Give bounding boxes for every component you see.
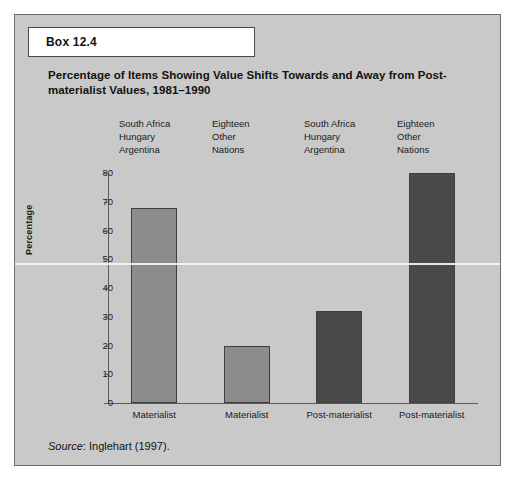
y-tick-mark bbox=[104, 173, 109, 174]
group-header-line: Hungary bbox=[304, 130, 355, 143]
group-header-line: Argentina bbox=[304, 143, 355, 156]
group-header-line: Argentina bbox=[119, 143, 170, 156]
box-number-tag: Box 12.4 bbox=[28, 27, 255, 57]
y-axis-title: Percentage bbox=[24, 135, 34, 255]
bar-chart: South AfricaHungaryArgentinaEighteenOthe… bbox=[48, 115, 478, 430]
group-header-line: South Africa bbox=[304, 117, 355, 130]
y-tick-mark bbox=[104, 231, 109, 232]
plot-area: Percentage 01020304050607080MaterialistM… bbox=[48, 173, 478, 403]
y-tick-mark bbox=[104, 374, 109, 375]
y-tick-mark bbox=[104, 288, 109, 289]
bar bbox=[409, 173, 455, 403]
source-text: : Inglehart (1997). bbox=[83, 440, 170, 452]
y-tick-mark bbox=[104, 202, 109, 203]
group-header-line: Eighteen bbox=[397, 117, 435, 130]
group-header-line: Eighteen bbox=[212, 117, 250, 130]
x-axis-label: Post-materialist bbox=[386, 409, 479, 420]
bar bbox=[316, 311, 362, 403]
group-header-row: South AfricaHungaryArgentinaEighteenOthe… bbox=[48, 115, 478, 169]
group-header-line: Nations bbox=[212, 143, 250, 156]
y-tick-mark bbox=[104, 259, 109, 260]
group-header-line: Nations bbox=[397, 143, 435, 156]
group-header-line: Other bbox=[212, 130, 250, 143]
y-tick-mark bbox=[104, 317, 109, 318]
x-axis-label: Materialist bbox=[201, 409, 294, 420]
y-tick-mark bbox=[104, 403, 109, 404]
group-header-line: South Africa bbox=[119, 117, 170, 130]
group-header-line: Other bbox=[397, 130, 435, 143]
source-note: Source: Inglehart (1997). bbox=[48, 440, 170, 452]
x-axis-line bbox=[108, 403, 478, 404]
group-header-label: EighteenOtherNations bbox=[397, 117, 435, 156]
y-tick-mark bbox=[104, 346, 109, 347]
bar bbox=[131, 208, 177, 404]
group-header-label: South AfricaHungaryArgentina bbox=[119, 117, 170, 156]
group-header-line: Hungary bbox=[119, 130, 170, 143]
bar bbox=[224, 346, 270, 404]
figure-panel: Box 12.4 Percentage of Items Showing Val… bbox=[14, 14, 501, 466]
x-axis-label: Post-materialist bbox=[293, 409, 386, 420]
group-header-label: EighteenOtherNations bbox=[212, 117, 250, 156]
source-word: Source bbox=[48, 440, 83, 452]
group-header-label: South AfricaHungaryArgentina bbox=[304, 117, 355, 156]
box-number-label: Box 12.4 bbox=[46, 35, 97, 49]
figure-title: Percentage of Items Showing Value Shifts… bbox=[48, 68, 478, 98]
x-axis-label: Materialist bbox=[108, 409, 201, 420]
